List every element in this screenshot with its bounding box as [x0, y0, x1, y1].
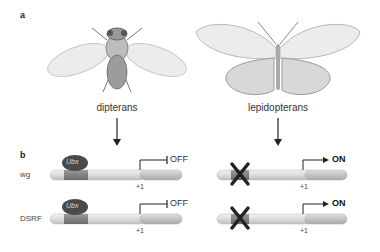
state-on: ON — [332, 154, 346, 164]
state-on: ON — [332, 198, 346, 208]
arrow-right-icon — [323, 157, 329, 163]
fly-illustration — [43, 28, 190, 92]
gene-label-wg: wg — [20, 170, 30, 179]
arrow-right-icon — [323, 201, 329, 207]
tss-label: +1 — [300, 227, 308, 234]
arrow-down-icon — [113, 139, 121, 146]
tss-label: +1 — [136, 227, 144, 234]
caption-dipterans: dipterans — [96, 102, 137, 113]
state-off: OFF — [170, 198, 188, 208]
tss-label: +1 — [136, 183, 144, 190]
gene-row-dsrf — [50, 199, 347, 228]
gene-row-wg — [50, 155, 347, 184]
butterfly-illustration — [196, 22, 360, 95]
diagram-graphics: dipterans lepidopterans — [0, 0, 380, 252]
ubx-label: Ubx — [66, 158, 78, 165]
gene-label-dsrf: DSRF — [20, 214, 42, 223]
state-off: OFF — [170, 154, 188, 164]
tss-label: +1 — [300, 183, 308, 190]
caption-lepidopterans: lepidopterans — [248, 102, 308, 113]
arrow-down-icon — [274, 139, 282, 146]
panel-label-b: b — [20, 150, 26, 160]
panel-label-a: a — [20, 10, 25, 20]
ubx-label: Ubx — [66, 202, 78, 209]
